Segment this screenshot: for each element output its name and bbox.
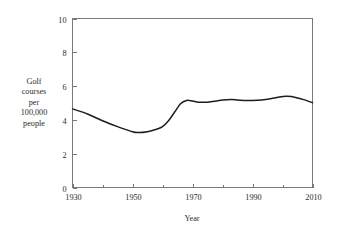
x-tick-label-2010: 2010 (305, 193, 321, 202)
y-axis-tick-labels: 0246810 (58, 16, 66, 194)
x-tick-label-1970: 1970 (185, 193, 201, 202)
y-tick-label-4: 4 (62, 117, 66, 126)
y-axis-ticks (73, 20, 77, 189)
x-axis-title: Year (184, 214, 199, 223)
data-series-line (73, 96, 313, 132)
x-tick-label-1990: 1990 (245, 193, 261, 202)
x-tick-label-1950: 1950 (125, 193, 141, 202)
y-tick-label-10: 10 (58, 16, 66, 25)
x-axis-tick-labels: 19301950197019902010 (65, 193, 321, 202)
chart-axes (72, 19, 313, 188)
y-tick-label-6: 6 (62, 83, 66, 92)
axis-frame (72, 19, 313, 188)
x-axis-ticks (74, 184, 314, 188)
chart-plot-area: 0246810 19301950197019902010 Year (0, 0, 338, 232)
chart-figure: Golf courses per 100,000 people 0246810 … (0, 0, 338, 232)
y-tick-label-2: 2 (62, 151, 66, 160)
y-tick-label-8: 8 (62, 49, 66, 58)
x-tick-label-1930: 1930 (65, 193, 81, 202)
